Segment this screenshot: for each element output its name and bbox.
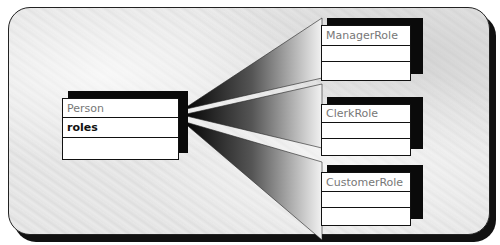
class-name: CustomerRole bbox=[322, 173, 410, 192]
operations-compartment bbox=[322, 62, 410, 79]
attributes-compartment bbox=[322, 192, 410, 208]
attributes-compartment bbox=[322, 46, 410, 62]
class-name: Person bbox=[63, 99, 178, 118]
class-name: ClerkRole bbox=[322, 105, 410, 123]
attribute-roles: roles bbox=[63, 118, 178, 138]
operations-compartment bbox=[63, 138, 178, 158]
operations-compartment bbox=[322, 208, 410, 224]
attributes-compartment bbox=[322, 123, 410, 139]
class-name: ManagerRole bbox=[322, 26, 410, 46]
operations-compartment bbox=[322, 139, 410, 154]
